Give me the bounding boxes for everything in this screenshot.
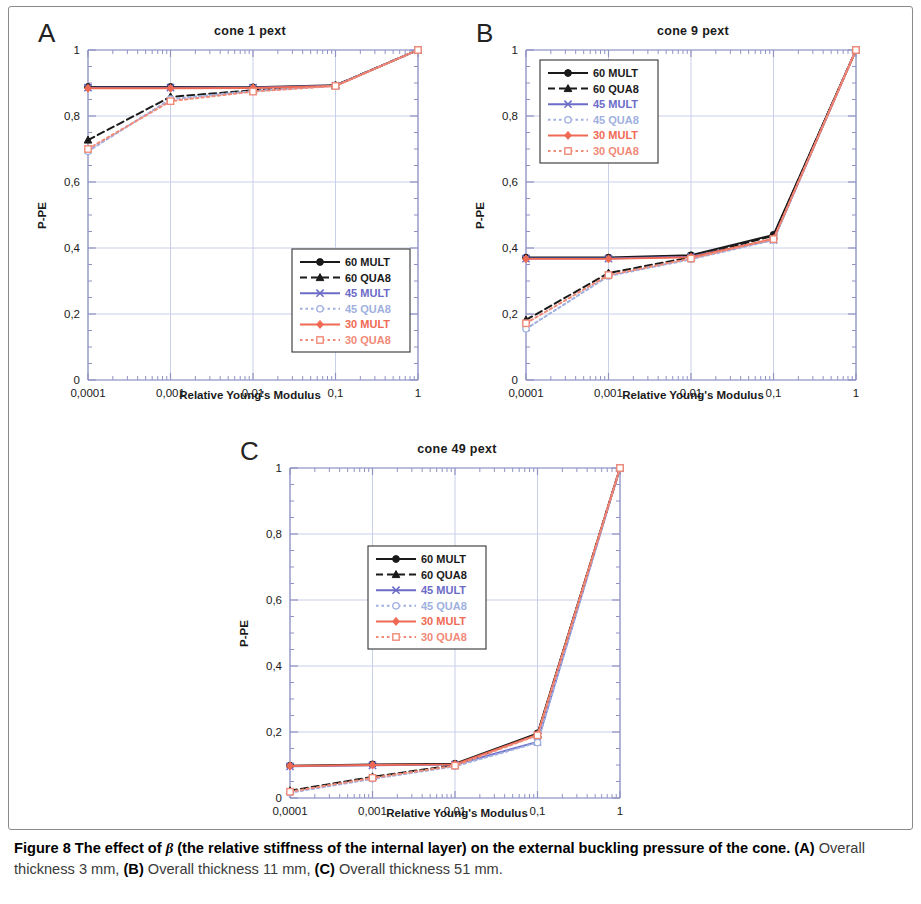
svg-text:45 MULT: 45 MULT	[593, 98, 638, 110]
figure-caption: Figure 8 The effect of β (the relative s…	[14, 838, 909, 879]
panel-a: A cone 1 pext 0,00010,0010,010,1100,20,4…	[30, 14, 460, 414]
svg-text:60 MULT: 60 MULT	[421, 553, 466, 565]
panel-c-y-axis-title: P-PE	[238, 620, 250, 647]
svg-text:60 QUA8: 60 QUA8	[421, 569, 467, 581]
svg-text:0: 0	[512, 374, 518, 386]
caption-ref-b: (B)	[123, 861, 143, 877]
svg-text:1: 1	[512, 44, 518, 56]
svg-text:0,6: 0,6	[266, 594, 282, 606]
svg-text:0,6: 0,6	[502, 176, 518, 188]
svg-text:0,2: 0,2	[266, 726, 282, 738]
svg-text:0: 0	[276, 792, 282, 804]
svg-text:60 MULT: 60 MULT	[345, 256, 390, 268]
svg-text:45 QUA8: 45 QUA8	[345, 303, 391, 315]
figure-root: A cone 1 pext 0,00010,0010,010,1100,20,4…	[0, 0, 921, 904]
svg-text:45 MULT: 45 MULT	[345, 287, 390, 299]
panel-b: B cone 9 pext 0,00010,0010,010,1100,20,4…	[468, 14, 908, 414]
svg-text:0,2: 0,2	[502, 308, 518, 320]
svg-text:0,2: 0,2	[64, 308, 80, 320]
svg-text:45 QUA8: 45 QUA8	[421, 600, 467, 612]
panel-b-x-axis-title: Relative Young's Modulus	[523, 389, 863, 401]
svg-text:30 QUA8: 30 QUA8	[421, 631, 467, 643]
svg-text:30 QUA8: 30 QUA8	[593, 145, 639, 157]
panel-b-y-axis-title: P-PE	[474, 202, 486, 229]
caption-lead-2: (the relative stiffness of the internal …	[173, 840, 790, 856]
svg-text:0,6: 0,6	[64, 176, 80, 188]
svg-text:0,4: 0,4	[64, 242, 81, 254]
svg-text:1: 1	[276, 462, 282, 474]
svg-text:0,4: 0,4	[502, 242, 519, 254]
svg-text:0,4: 0,4	[266, 660, 283, 672]
svg-text:60 QUA8: 60 QUA8	[345, 272, 391, 284]
caption-ref-a: (A)	[794, 840, 814, 856]
caption-ref-c: (C)	[315, 861, 335, 877]
caption-text-b: Overall thickness 11 mm,	[144, 861, 315, 877]
svg-text:45 QUA8: 45 QUA8	[593, 114, 639, 126]
svg-text:1: 1	[415, 387, 421, 399]
svg-text:45 MULT: 45 MULT	[421, 584, 466, 596]
svg-text:60 QUA8: 60 QUA8	[593, 83, 639, 95]
svg-text:0: 0	[74, 374, 80, 386]
panel-a-x-axis-title: Relative Young's Modulus	[85, 389, 415, 401]
panel-c-plot: 0,00010,0010,010,1100,20,40,60,8160 MULT…	[232, 432, 672, 832]
svg-text:30 MULT: 30 MULT	[593, 129, 638, 141]
panel-c-x-axis-title: Relative Young's Modulus	[287, 807, 627, 819]
caption-text-c: Overall thickness 51 mm.	[335, 861, 503, 877]
caption-lead: Figure 8 The effect of	[14, 840, 166, 856]
panel-c: C cone 49 pext 0,00010,0010,010,1100,20,…	[232, 432, 672, 832]
panel-b-plot: 0,00010,0010,010,1100,20,40,60,8160 MULT…	[468, 14, 908, 414]
svg-text:1: 1	[74, 44, 80, 56]
svg-text:0,8: 0,8	[502, 110, 518, 122]
panel-a-plot: 0,00010,0010,010,1100,20,40,60,8160 MULT…	[30, 14, 460, 414]
panel-a-y-axis-title: P-PE	[36, 202, 48, 229]
caption-beta-symbol: β	[166, 840, 173, 856]
svg-text:0,8: 0,8	[266, 528, 282, 540]
svg-text:30 MULT: 30 MULT	[345, 318, 390, 330]
svg-text:60 MULT: 60 MULT	[593, 67, 638, 79]
svg-text:30 QUA8: 30 QUA8	[345, 334, 391, 346]
svg-text:0,8: 0,8	[64, 110, 80, 122]
svg-text:30 MULT: 30 MULT	[421, 615, 466, 627]
